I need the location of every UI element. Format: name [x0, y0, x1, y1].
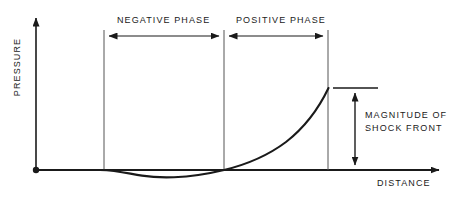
magnitude-label-line-2: SHOCK FRONT: [365, 122, 443, 134]
y-axis-label: PRESSURE: [11, 38, 23, 96]
pressure-profile-curve: [36, 88, 329, 177]
magnitude-label-line-1: MAGNITUDE OF: [365, 109, 447, 121]
positive-phase-label: POSITIVE PHASE: [236, 14, 326, 26]
pressure-distance-diagram: PRESSURE NEGATIVE PHASE POSITIVE PHASE D…: [0, 0, 456, 201]
x-axis-label: DISTANCE: [377, 177, 431, 189]
negative-phase-label: NEGATIVE PHASE: [117, 14, 210, 26]
diagram-canvas: [0, 0, 456, 201]
